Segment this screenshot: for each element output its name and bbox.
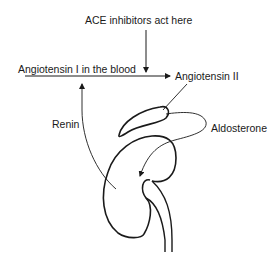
adrenal-gland-shape xyxy=(119,107,169,137)
angiotensin-2-label: Angiotensin II xyxy=(175,71,239,82)
kidney-shape xyxy=(103,136,176,238)
renin-label: Renin xyxy=(52,119,79,130)
angiotensin-1-label: Angiotensin I in the blood xyxy=(18,64,136,75)
aldosterone-label: Aldosterone xyxy=(211,123,267,134)
renin-arrow xyxy=(82,84,116,189)
ace-inhibitors-label: ACE inhibitors act here xyxy=(85,15,192,26)
angiotensin2-pointer xyxy=(163,84,187,110)
